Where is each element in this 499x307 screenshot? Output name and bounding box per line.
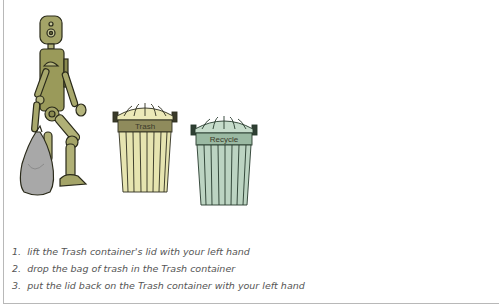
- recycle-container[interactable]: Recycle: [190, 115, 258, 211]
- trash-label: Trash: [112, 122, 178, 131]
- instruction-step-2: 2. drop the bag of trash in the Trash co…: [12, 260, 305, 277]
- robot-figure: [14, 14, 94, 199]
- instruction-step-3: 3. put the lid back on the Trash contain…: [12, 277, 305, 294]
- recycle-can-icon: [190, 115, 258, 207]
- trash-can-icon: [112, 102, 178, 194]
- instruction-list: 1. lift the Trash container's lid with y…: [12, 243, 305, 294]
- trash-container[interactable]: Trash: [112, 102, 178, 198]
- illustration-scene: Trash Recycle: [0, 0, 499, 220]
- instruction-step-1: 1. lift the Trash container's lid with y…: [12, 243, 305, 260]
- recycle-label: Recycle: [190, 135, 258, 144]
